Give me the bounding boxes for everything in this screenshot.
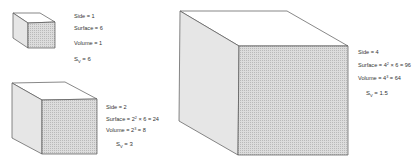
medium-surface-label: Surface = 22 × 6 = 24	[106, 117, 159, 123]
medium-cube	[12, 82, 97, 154]
large-sv-ratio: SV = 1.5	[366, 90, 388, 98]
small-surface-label: Surface = 6	[74, 26, 103, 32]
large-cube	[179, 11, 348, 155]
large-volume-label: Volume = 43 = 64	[358, 76, 401, 82]
cubes-diagram	[0, 0, 417, 164]
medium-side-label: Side = 2	[106, 105, 127, 111]
small-cube	[13, 13, 55, 48]
large-side-label: Side = 4	[358, 50, 379, 56]
medium-sv-ratio: SV = 3	[116, 141, 133, 149]
medium-volume-label: Volume = 23 = 8	[106, 128, 146, 134]
small-side-label: Side = 1	[74, 14, 95, 20]
small-sv-ratio: SV = 6	[74, 56, 91, 64]
large-surface-label: Surface = 42 × 6 = 96	[358, 63, 411, 69]
small-volume-label: Volume = 1	[74, 41, 102, 47]
